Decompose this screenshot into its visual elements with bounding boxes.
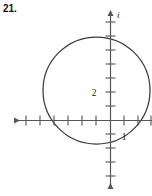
circle-path [43, 37, 150, 144]
complex-plane-plot: i 2 1 [0, 0, 152, 196]
circle-curve [43, 37, 150, 144]
figure-container: 21. [0, 0, 152, 196]
imaginary-axis [106, 16, 116, 189]
tick-label-imaginary-2: 2 [92, 88, 97, 98]
imaginary-axis-label: i [117, 10, 120, 20]
real-axis [14, 116, 152, 126]
tick-label-real-1: 1 [122, 132, 127, 142]
